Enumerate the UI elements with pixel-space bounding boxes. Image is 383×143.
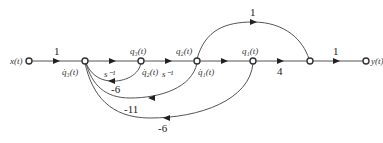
node-y xyxy=(363,58,369,64)
arrow-icon xyxy=(165,58,172,64)
node-x xyxy=(26,58,32,64)
node-n5 xyxy=(307,58,313,64)
gain-fb-n4-n1: -6 xyxy=(158,122,168,134)
gain-fb-n3-n1: -11 xyxy=(124,103,138,115)
label-x: x(t) xyxy=(9,56,23,66)
arrow-icon xyxy=(250,19,257,25)
gain-n4-n5: 4 xyxy=(277,65,283,77)
signal-flow-graph: x(t) y(t) q̇₃(t) q₃(t) q̇₂(t) q₂(t) q̇₁(… xyxy=(0,0,383,143)
gain-n3-n5: 1 xyxy=(250,6,256,18)
gain-n1-n2: s⁻¹ xyxy=(104,69,116,79)
label-y: y(t) xyxy=(370,56,383,66)
label-n3-below: q̇₁(t) xyxy=(198,67,214,77)
label-n1-below: q̇₃(t) xyxy=(62,67,78,77)
arrow-icon xyxy=(221,58,228,64)
gain-x-n1: 1 xyxy=(54,45,60,57)
gain-n5-y: 1 xyxy=(333,45,339,57)
gain-n2-n3: s⁻¹ xyxy=(162,69,174,79)
arrow-icon xyxy=(163,115,170,121)
label-n3-above: q₂(t) xyxy=(176,46,192,56)
arrow-icon xyxy=(277,58,284,64)
label-n2-above: q₃(t) xyxy=(130,46,146,56)
gain-fb-n2-n1: -6 xyxy=(111,83,121,95)
arrow-icon xyxy=(53,58,60,64)
label-n2-below: q̇₂(t) xyxy=(142,67,158,77)
arrow-icon xyxy=(333,58,340,64)
arrow-icon xyxy=(109,58,116,64)
node-n1 xyxy=(82,58,88,64)
node-n2 xyxy=(138,58,144,64)
node-n3 xyxy=(194,58,200,64)
node-n4 xyxy=(250,58,256,64)
label-n4-above: q₁(t) xyxy=(242,46,258,56)
